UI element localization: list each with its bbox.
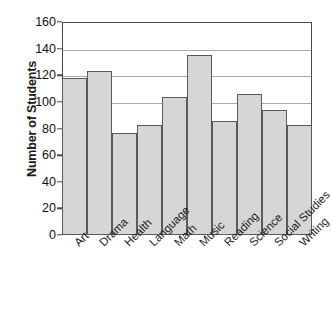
x-axis-tick-group: ArtDramaHealthLanguageMathMusicReadingSc…: [0, 0, 332, 320]
x-axis-tick-label: Music: [197, 219, 227, 249]
x-axis-tick-label: Drama: [97, 216, 130, 249]
x-axis-tick-label: Art: [72, 230, 91, 249]
bar-chart: Number of Students 020406080100120140160…: [0, 0, 332, 320]
